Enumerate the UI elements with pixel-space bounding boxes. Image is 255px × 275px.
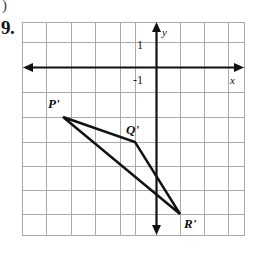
coordinate-graph: y x 1 -1 P' Q' R' (22, 22, 245, 236)
vertex-label-q-prime: Q' (126, 122, 139, 137)
triangle-pqr-prime (63, 117, 180, 214)
vertex-label-p-prime: P' (48, 96, 60, 111)
vertex-label-r-prime: R' (183, 216, 197, 231)
y-axis (152, 22, 161, 235)
y-axis-label: y (161, 26, 167, 38)
problem-number: 9. (1, 18, 14, 37)
x-axis (23, 63, 244, 72)
x-axis-label: x (229, 74, 235, 86)
worksheet-figure-page: ) 9. (0, 0, 255, 275)
partial-character-above: ) (2, 0, 7, 13)
tick-label-negative-one: -1 (133, 73, 143, 87)
tick-label-positive-one: 1 (137, 38, 143, 52)
